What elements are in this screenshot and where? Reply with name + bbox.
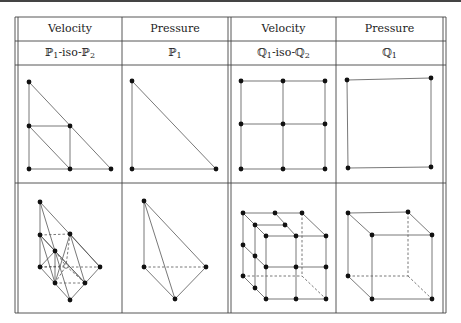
q1-3d-element <box>346 210 435 302</box>
q1-iso-q2-3d-element <box>241 211 329 302</box>
p1-2d-element <box>130 79 219 172</box>
table-grid <box>15 17 446 313</box>
hidden-node <box>64 264 69 269</box>
p1-3d-element <box>142 199 209 302</box>
q1-iso-q2-2d-element <box>239 79 328 172</box>
p1-iso-p2-2d-element <box>27 80 114 172</box>
element-table-figure <box>0 0 461 323</box>
p1-iso-p2-3d-element <box>38 200 103 303</box>
q1-2d-element <box>345 76 434 171</box>
